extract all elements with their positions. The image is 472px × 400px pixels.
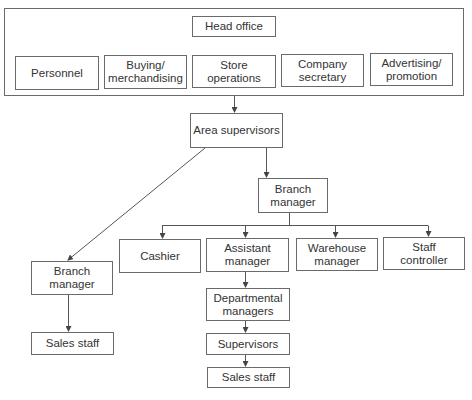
connector-lines [0,0,472,400]
arrow-area-to-small-branch [68,148,205,260]
